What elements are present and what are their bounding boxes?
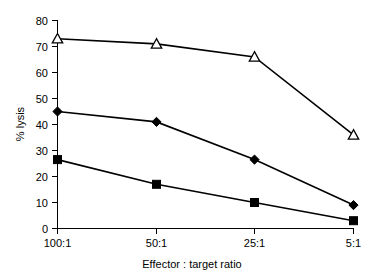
axis-lines [58, 20, 355, 229]
x-tick-marks [58, 229, 354, 235]
y-tick-label: 0 [42, 223, 48, 235]
y-tick-label: 70 [36, 41, 48, 53]
x-tick-labels: 100:1 50:1 25:1 5:1 [44, 237, 361, 249]
x-tick-label: 50:1 [146, 237, 167, 249]
x-tick-label: 25:1 [244, 237, 265, 249]
x-tick-label: 5:1 [346, 237, 361, 249]
square-marker [251, 199, 259, 207]
line-chart: 0 10 20 30 40 50 60 70 80 100:1 50:1 25:… [0, 0, 372, 278]
open-triangle-series [52, 34, 358, 140]
y-tick-label: 50 [36, 93, 48, 105]
diamond-marker [152, 117, 161, 126]
y-tick-label: 20 [36, 171, 48, 183]
square-marker [350, 217, 358, 225]
y-tick-label: 60 [36, 67, 48, 79]
square-marker [153, 180, 161, 188]
x-tick-label: 100:1 [44, 237, 72, 249]
filled-diamond-series [53, 107, 358, 210]
chart-container: 0 10 20 30 40 50 60 70 80 100:1 50:1 25:… [0, 0, 372, 278]
y-axis-title: % lysis [14, 106, 26, 141]
diamond-marker [250, 155, 259, 164]
y-tick-label: 80 [36, 15, 48, 27]
series-line [58, 160, 354, 221]
x-axis-title: Effector : target ratio [142, 258, 241, 270]
series-line [58, 39, 354, 135]
filled-square-series [54, 156, 358, 225]
series-line [58, 112, 354, 206]
y-tick-label: 30 [36, 145, 48, 157]
y-tick-labels: 0 10 20 30 40 50 60 70 80 [36, 15, 48, 235]
y-tick-marks [52, 21, 58, 229]
diamond-marker [53, 107, 62, 116]
y-tick-label: 40 [36, 119, 48, 131]
square-marker [54, 156, 62, 164]
y-tick-label: 10 [36, 197, 48, 209]
diamond-marker [349, 201, 358, 210]
series-layer [52, 34, 358, 225]
